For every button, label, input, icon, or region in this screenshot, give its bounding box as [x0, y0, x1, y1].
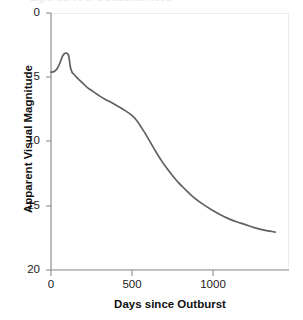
x-tick-label-0: 0 — [31, 278, 71, 290]
y-tick-label-20: 20 — [6, 263, 40, 275]
nova-light-curve — [51, 53, 275, 232]
x-tick-label-1000: 1000 — [193, 278, 233, 290]
x-tick-label-500: 500 — [112, 278, 152, 290]
x-axis-title: Days since Outburst — [51, 298, 289, 310]
chart-figure: Light Curve of a Classical Nova 0 5 10 1… — [0, 0, 303, 320]
y-axis-title: Apparent Visual Magnitude — [22, 49, 34, 229]
y-tick-label-0: 0 — [6, 6, 40, 18]
chart-canvas — [0, 0, 303, 320]
